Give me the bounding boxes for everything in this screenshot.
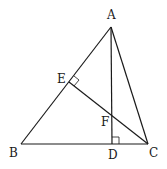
right-angle-mark-E [74,76,79,86]
segment-AB [21,27,111,144]
altitude-AD [111,27,112,144]
altitude-CE [69,82,148,144]
right-angle-mark-D [112,137,119,144]
geometry-diagram: A B C D E F [0,0,167,169]
label-A: A [106,8,116,22]
label-B: B [9,146,18,160]
label-D: D [108,148,118,162]
segment-CA [111,27,148,144]
label-E: E [57,72,66,86]
label-F: F [101,115,109,129]
label-C: C [149,146,158,160]
